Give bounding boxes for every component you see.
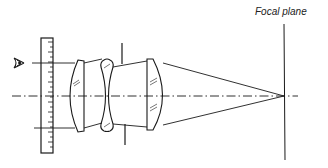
diagram-canvas — [0, 0, 328, 168]
focal-plane — [284, 24, 285, 160]
lens-3 — [147, 59, 163, 130]
aperture-stop — [122, 43, 125, 145]
focal-plane-label: Focal plane — [255, 6, 307, 17]
optical-diagram: Focal plane — [0, 0, 328, 168]
lens-2 — [101, 59, 113, 132]
eye-icon — [14, 58, 24, 68]
scale-ruler — [41, 38, 53, 153]
